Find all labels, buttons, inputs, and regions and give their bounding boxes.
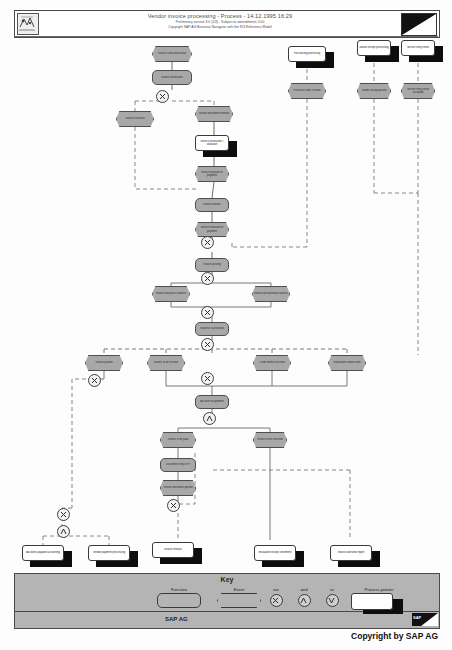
- node-label: Invoice document posted: [161, 486, 195, 489]
- function-node[interactable]: Account assignment: [195, 395, 229, 409]
- node-label: Credit memo received: [254, 361, 290, 364]
- xor-connector[interactable]: [156, 90, 169, 103]
- process-pointer-node[interactable]: Invoice release: [152, 542, 194, 558]
- process-pointer-node[interactable]: Accounts payable accounting: [22, 545, 64, 561]
- event-node[interactable]: Subsequent debit/credit: [328, 355, 366, 371]
- node-label: Subsequent debit/credit: [329, 361, 365, 364]
- node-label: Invoice overview report: [331, 551, 371, 554]
- node-label: Invoice blocked for payment: [196, 171, 228, 177]
- event-node[interactable]: Invoice blocked for payment: [195, 166, 229, 182]
- process-pointer-node[interactable]: Purchasing processing: [288, 46, 326, 62]
- process-pointer-node[interactable]: Service entry sheet: [401, 40, 435, 56]
- event-node[interactable]: Invoice to be paid: [160, 432, 196, 448]
- sap-corner-logo-icon: SAP: [412, 613, 438, 626]
- xor-connector[interactable]: [201, 338, 214, 351]
- key-process-pointer-shape: [351, 593, 393, 610]
- node-label: Variance clarification: [196, 327, 228, 330]
- node-label: Invoice with price variance: [153, 292, 189, 295]
- event-node[interactable]: Invoice document posted: [160, 480, 196, 496]
- key-xor-icon: [270, 594, 283, 607]
- event-node[interactable]: Purchase order created: [288, 83, 326, 99]
- event-node[interactable]: Invoice document entered: [195, 106, 233, 122]
- event-node[interactable]: Invoice to be verified: [147, 355, 185, 371]
- key-function-shape: [157, 593, 201, 608]
- node-label: Goods receipt processing: [358, 46, 390, 49]
- node-label: Invoice to be reversed: [254, 438, 286, 441]
- node-label: Vendor payment processing: [89, 551, 129, 554]
- key-function-sample: Function: [155, 587, 203, 608]
- event-node[interactable]: Invoice released for payment: [195, 222, 229, 237]
- node-label: Invoice received: [117, 117, 153, 120]
- xor-connector[interactable]: [201, 236, 214, 249]
- node-label: Purchase order created: [289, 89, 325, 92]
- node-label: Invoice released for payment: [196, 226, 228, 232]
- node-label: Invoice document entered: [196, 112, 232, 115]
- key-legend-panel: Key Function Event xor and: [14, 573, 440, 629]
- node-label: Invoice parked: [86, 361, 122, 364]
- xor-connector[interactable]: [201, 372, 214, 385]
- key-and-sample: and: [293, 587, 315, 607]
- function-node[interactable]: Invoice posting: [195, 258, 229, 272]
- node-label: Invoice with quantity variance: [253, 292, 289, 295]
- event-node[interactable]: Invoice to be reversed: [253, 432, 287, 448]
- xor-connector[interactable]: [201, 272, 214, 285]
- key-xor-label: xor: [265, 587, 287, 593]
- copyright-notice: Copyright by SAP AG: [351, 631, 438, 641]
- node-label: Service entry sheet accepted: [402, 88, 434, 94]
- node-label: Invoice to be verified: [148, 361, 184, 364]
- key-or-label: or: [321, 587, 343, 593]
- process-pointer-node[interactable]: Invoice verification / valuation: [195, 135, 229, 151]
- node-label: Invoice to be processed: [153, 52, 191, 55]
- key-or-sample: or: [321, 587, 343, 607]
- process-pointer-node[interactable]: Evaluated receipt settlement: [254, 545, 296, 561]
- xor-connector[interactable]: [57, 508, 70, 521]
- function-node[interactable]: Invoice release: [195, 198, 229, 212]
- and-connector[interactable]: [57, 525, 70, 538]
- process-pointer-node[interactable]: Invoice overview report: [330, 545, 372, 561]
- process-pointer-node[interactable]: Vendor payment processing: [88, 545, 130, 561]
- function-node[interactable]: Document entry in FI: [160, 458, 196, 472]
- key-event-label: Event: [215, 587, 263, 593]
- event-node[interactable]: Credit memo received: [253, 355, 291, 371]
- diagram-page: Vendor invoice processing - Process - 14…: [0, 0, 452, 650]
- node-label: Accounts payable accounting: [23, 551, 63, 554]
- event-node[interactable]: Invoice received: [116, 111, 154, 127]
- key-xor-sample: xor: [265, 587, 287, 607]
- event-node[interactable]: Service entry sheet accepted: [401, 83, 435, 99]
- node-label: Account assignment: [196, 400, 228, 403]
- node-label: Purchasing processing: [289, 52, 325, 55]
- node-label: Invoice verification / valuation: [196, 140, 228, 146]
- function-node[interactable]: Invoice verification: [152, 70, 192, 85]
- key-event-sample: Event: [215, 587, 263, 608]
- node-label: Evaluated receipt settlement: [255, 551, 295, 554]
- xor-connector[interactable]: [167, 499, 180, 512]
- function-node[interactable]: Variance clarification: [195, 322, 229, 336]
- event-node[interactable]: Invoice with quantity variance: [252, 286, 290, 302]
- xor-connector[interactable]: [201, 306, 214, 319]
- node-label: Service entry sheet: [402, 46, 434, 49]
- key-or-icon: [326, 594, 339, 607]
- node-label: Document entry in FI: [161, 463, 195, 466]
- key-and-icon: [298, 594, 311, 607]
- key-and-label: and: [293, 587, 315, 593]
- event-node[interactable]: Invoice to be processed: [152, 46, 192, 62]
- node-label: Invoice release: [196, 203, 228, 206]
- key-title: Key: [15, 576, 439, 583]
- xor-connector[interactable]: [88, 374, 101, 387]
- node-label: Invoice verification: [153, 76, 191, 79]
- node-label: Invoice posting: [196, 263, 228, 266]
- process-pointer-node[interactable]: Goods receipt processing: [357, 40, 391, 56]
- node-label: Invoice release: [153, 548, 193, 551]
- footer-company-label: SAP AG: [165, 616, 188, 622]
- node-label: Invoice to be paid: [161, 438, 195, 441]
- and-connector[interactable]: [203, 412, 216, 425]
- node-label: Goods receipt posted: [358, 89, 390, 92]
- event-node[interactable]: Invoice with price variance: [152, 286, 190, 302]
- event-node[interactable]: Goods receipt posted: [357, 83, 391, 99]
- key-event-shape: [217, 593, 261, 608]
- event-node[interactable]: Invoice parked: [85, 355, 123, 371]
